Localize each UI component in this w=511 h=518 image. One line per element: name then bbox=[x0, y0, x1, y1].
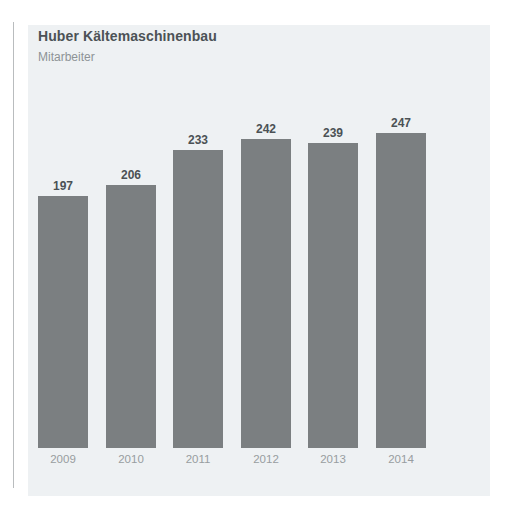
bar-chart-plot-area: 197206233242239247 bbox=[38, 100, 454, 448]
bar-rect[interactable] bbox=[106, 185, 156, 448]
bar-value-label: 233 bbox=[161, 134, 235, 147]
bar-rect[interactable] bbox=[241, 139, 291, 448]
x-axis-category-labels: 200920102011201220132014 bbox=[38, 452, 454, 472]
bar-2011[interactable]: 233 bbox=[173, 100, 223, 448]
x-axis-label-2013: 2013 bbox=[308, 452, 358, 467]
bar-rect[interactable] bbox=[173, 150, 223, 448]
chart-title: Huber Kältemaschinenbau bbox=[38, 28, 418, 45]
x-axis-label-2011: 2011 bbox=[173, 452, 223, 467]
bar-value-label: 247 bbox=[364, 117, 438, 130]
bar-value-label: 242 bbox=[229, 123, 303, 136]
bar-2009[interactable]: 197 bbox=[38, 100, 88, 448]
x-axis-label-2012: 2012 bbox=[241, 452, 291, 467]
bar-rect[interactable] bbox=[376, 133, 426, 448]
bar-2012[interactable]: 242 bbox=[241, 100, 291, 448]
bar-value-label: 197 bbox=[26, 180, 100, 193]
bar-value-label: 239 bbox=[296, 127, 370, 140]
bar-value-label: 206 bbox=[94, 169, 168, 182]
x-axis-label-2010: 2010 bbox=[106, 452, 156, 467]
chart-header: Huber Kältemaschinenbau Mitarbeiter bbox=[38, 28, 418, 65]
bar-2013[interactable]: 239 bbox=[308, 100, 358, 448]
chart-subtitle: Mitarbeiter bbox=[38, 49, 418, 65]
bar-2014[interactable]: 247 bbox=[376, 100, 426, 448]
bar-rect[interactable] bbox=[38, 196, 88, 448]
left-margin-rule bbox=[13, 22, 14, 488]
x-axis-label-2014: 2014 bbox=[376, 452, 426, 467]
bar-2010[interactable]: 206 bbox=[106, 100, 156, 448]
bar-rect[interactable] bbox=[308, 143, 358, 448]
x-axis-label-2009: 2009 bbox=[38, 452, 88, 467]
